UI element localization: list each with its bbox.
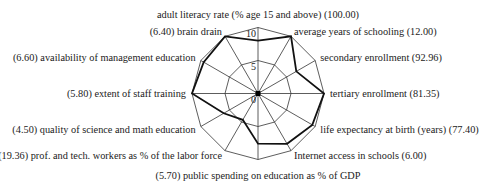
radar-axis-labels: adult literacy rate (% age 15 and above)… <box>0 9 479 182</box>
axis-label: average years of schooling (12.00) <box>294 26 437 38</box>
tick-label-5: 5 <box>251 61 256 72</box>
axis-label: Internet access in schools (6.00) <box>294 150 426 162</box>
axis-spoke <box>201 94 258 127</box>
axis-spoke <box>258 94 291 151</box>
axis-label: (5.70) public spending on education as %… <box>155 170 360 182</box>
axis-spoke <box>258 94 315 127</box>
axis-label: adult literacy rate (% age 15 and above)… <box>157 9 359 21</box>
center-marker <box>256 91 261 96</box>
axis-spoke <box>258 36 291 93</box>
radar-chart: 0510 adult literacy rate (% age 15 and a… <box>0 0 484 188</box>
tick-label-10: 10 <box>246 28 256 39</box>
axis-label: (6.60) availability of management educat… <box>13 52 196 64</box>
axis-label: secondary enrollment (92.96) <box>320 52 442 64</box>
axis-label: (6.40) brain drain <box>150 26 222 38</box>
axis-label: tertiary enrollment (81.35) <box>330 88 440 100</box>
tick-label-0: 0 <box>251 94 256 105</box>
axis-label: life expectancy at birth (years) (77.40) <box>320 124 478 136</box>
axis-label: (19.36) prof. and tech. workers as % of … <box>0 150 222 162</box>
axis-label: (5.80) extent of staff training <box>67 88 186 100</box>
axis-label: (4.50) quality of science and math educa… <box>12 124 195 136</box>
axis-spoke <box>201 61 258 94</box>
axis-spoke <box>258 61 315 94</box>
